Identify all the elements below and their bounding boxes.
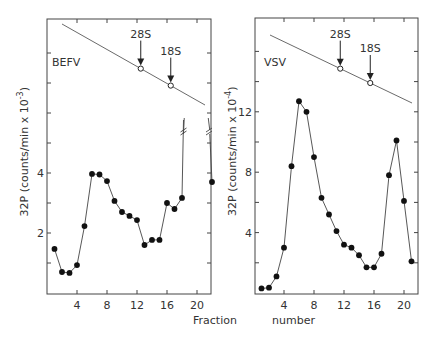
x-tick-label: 8 bbox=[104, 299, 111, 312]
data-point bbox=[142, 242, 148, 248]
y-tick-label: 8 bbox=[245, 166, 252, 179]
marker-arrow-icon bbox=[137, 59, 144, 66]
data-point bbox=[401, 198, 407, 204]
data-point bbox=[304, 109, 310, 115]
marker-circle bbox=[338, 66, 343, 71]
x-tick-label: 16 bbox=[367, 299, 381, 312]
data-point bbox=[89, 171, 95, 177]
data-point bbox=[172, 206, 178, 212]
data-point bbox=[127, 213, 133, 219]
y-axis-label: 32P (counts/min x 10-4) bbox=[224, 87, 239, 216]
marker-arrow-icon bbox=[367, 73, 374, 80]
data-point bbox=[334, 228, 340, 234]
chart-panel-befv: 481216202432P (counts/min x 10-3)BEFV28S… bbox=[16, 19, 215, 312]
data-point bbox=[104, 178, 110, 184]
x-tick-label: 16 bbox=[160, 299, 174, 312]
data-point bbox=[349, 245, 355, 251]
data-point bbox=[311, 154, 317, 160]
data-point bbox=[74, 262, 80, 268]
x-tick-label: 20 bbox=[397, 299, 411, 312]
y-tick-label: 2 bbox=[37, 227, 44, 240]
x-tick-label: 8 bbox=[311, 299, 318, 312]
x-tick-label: 20 bbox=[190, 299, 204, 312]
data-point bbox=[319, 195, 325, 201]
data-point bbox=[326, 212, 332, 218]
data-point bbox=[82, 223, 88, 229]
data-line-offscale bbox=[208, 118, 210, 130]
x-tick-label: 4 bbox=[281, 299, 288, 312]
data-point bbox=[52, 246, 58, 252]
data-point bbox=[409, 258, 415, 264]
y-tick-label: 4 bbox=[37, 167, 44, 180]
x-tick-label: 12 bbox=[130, 299, 144, 312]
data-point bbox=[341, 242, 347, 248]
marker-arrow-icon bbox=[167, 76, 174, 83]
panel-title: VSV bbox=[264, 56, 287, 69]
x-tick-label: 4 bbox=[74, 299, 81, 312]
data-point bbox=[296, 98, 302, 104]
data-point bbox=[59, 269, 65, 275]
marker-circle bbox=[138, 66, 143, 71]
data-point bbox=[259, 286, 265, 292]
data-point bbox=[67, 270, 73, 276]
data-point bbox=[112, 198, 118, 204]
marker-label-28s: 28S bbox=[130, 28, 151, 41]
data-point bbox=[134, 217, 140, 223]
marker-circle bbox=[168, 83, 173, 88]
data-point bbox=[356, 252, 362, 258]
data-point bbox=[97, 172, 103, 178]
data-point bbox=[289, 163, 295, 169]
data-point bbox=[281, 245, 287, 251]
data-point bbox=[164, 200, 170, 206]
y-axis-label: 32P (counts/min x 10-3) bbox=[16, 87, 31, 216]
data-line bbox=[55, 174, 183, 273]
marker-circle bbox=[368, 80, 373, 85]
x-axis-label-fraction: Fraction bbox=[193, 314, 237, 327]
marker-label-28s: 28S bbox=[330, 28, 351, 41]
data-point bbox=[266, 285, 272, 291]
data-point bbox=[379, 251, 385, 257]
data-point bbox=[149, 237, 155, 243]
panel-title: BEFV bbox=[52, 56, 81, 69]
data-point bbox=[119, 209, 125, 215]
data-point bbox=[371, 264, 377, 270]
y-tick-label: 4 bbox=[245, 227, 252, 240]
figure: 481216202432P (counts/min x 10-3)BEFV28S… bbox=[0, 0, 440, 337]
data-point bbox=[157, 237, 163, 243]
data-point bbox=[386, 172, 392, 178]
y-tick-label: 12 bbox=[238, 106, 252, 119]
data-point bbox=[364, 264, 370, 270]
data-point bbox=[274, 273, 280, 279]
data-point bbox=[394, 138, 400, 144]
marker-label-18s: 18S bbox=[160, 45, 181, 58]
x-tick-label: 12 bbox=[337, 299, 351, 312]
chart-panel-vsv: 48121620481232P (counts/min x 10-4)VSV28… bbox=[224, 18, 418, 312]
x-axis-label-number: number bbox=[272, 314, 315, 327]
marker-label-18s: 18S bbox=[360, 42, 381, 55]
data-point bbox=[209, 179, 215, 185]
data-line bbox=[262, 101, 412, 288]
data-point bbox=[179, 195, 185, 201]
marker-arrow-icon bbox=[337, 59, 344, 66]
